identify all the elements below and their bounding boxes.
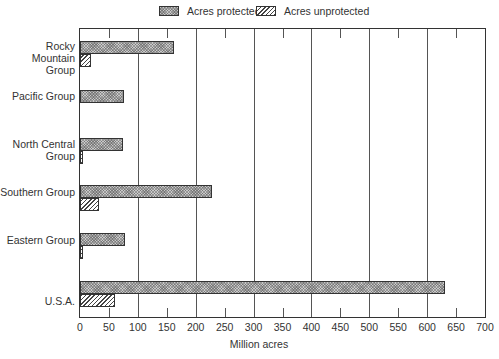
legend-item-protected: Acres protected bbox=[159, 5, 261, 17]
x-axis-label: Million acres bbox=[230, 338, 288, 350]
legend-label-protected: Acres protected bbox=[187, 5, 261, 17]
gridline bbox=[427, 29, 428, 317]
axis-tick bbox=[225, 308, 226, 317]
plot-area bbox=[79, 28, 486, 318]
x-tick-label: 100 bbox=[129, 321, 147, 333]
axis-tick bbox=[340, 29, 341, 38]
category-label: Eastern Group bbox=[7, 234, 75, 246]
x-tick-label: 300 bbox=[245, 321, 263, 333]
unprotected-swatch-icon bbox=[256, 6, 276, 16]
x-tick-label: 700 bbox=[476, 321, 494, 333]
x-tick-label: 450 bbox=[332, 321, 350, 333]
gridline bbox=[196, 29, 197, 317]
bar-unprotected bbox=[80, 54, 91, 67]
axis-tick bbox=[167, 308, 168, 317]
bar-unprotected bbox=[80, 198, 99, 211]
bar-protected bbox=[80, 41, 174, 54]
axis-tick bbox=[283, 29, 284, 38]
bar-protected bbox=[80, 185, 212, 198]
category-label: Rocky Mountain Group bbox=[0, 40, 75, 76]
axis-tick bbox=[456, 308, 457, 317]
legend: Acres protected Acres unprotected bbox=[0, 5, 499, 21]
axis-tick bbox=[398, 29, 399, 38]
x-tick-label: 600 bbox=[418, 321, 436, 333]
x-tick-label: 400 bbox=[303, 321, 321, 333]
protected-swatch-icon bbox=[159, 6, 179, 16]
axis-tick bbox=[398, 308, 399, 317]
x-tick-label: 550 bbox=[389, 321, 407, 333]
x-tick-label: 0 bbox=[77, 321, 83, 333]
gridline bbox=[254, 29, 255, 317]
axis-tick bbox=[167, 29, 168, 38]
category-label: Pacific Group bbox=[12, 90, 75, 102]
category-label: North Central Group bbox=[13, 138, 75, 162]
gridline bbox=[311, 29, 312, 317]
axis-tick bbox=[456, 29, 457, 38]
axis-tick bbox=[225, 29, 226, 38]
bar-unprotected bbox=[80, 294, 115, 307]
category-label: Southern Group bbox=[0, 186, 75, 198]
axis-tick bbox=[109, 308, 110, 317]
legend-label-unprotected: Acres unprotected bbox=[284, 5, 369, 17]
bar-protected bbox=[80, 90, 124, 103]
category-label: U.S.A. bbox=[45, 295, 75, 307]
axis-tick bbox=[109, 29, 110, 38]
x-tick-label: 250 bbox=[216, 321, 234, 333]
bar-unprotected bbox=[80, 246, 83, 259]
x-tick-label: 150 bbox=[158, 321, 176, 333]
x-tick-label: 350 bbox=[274, 321, 292, 333]
bar-protected bbox=[80, 138, 123, 151]
gridline bbox=[138, 29, 139, 317]
bar-unprotected bbox=[80, 151, 83, 164]
x-tick-label: 650 bbox=[447, 321, 465, 333]
x-tick-label: 200 bbox=[187, 321, 205, 333]
axis-tick bbox=[283, 308, 284, 317]
gridline bbox=[369, 29, 370, 317]
x-tick-label: 500 bbox=[361, 321, 379, 333]
legend-item-unprotected: Acres unprotected bbox=[256, 5, 369, 17]
bar-protected bbox=[80, 233, 125, 246]
x-tick-label: 50 bbox=[103, 321, 115, 333]
bar-protected bbox=[80, 281, 445, 294]
axis-tick bbox=[340, 308, 341, 317]
